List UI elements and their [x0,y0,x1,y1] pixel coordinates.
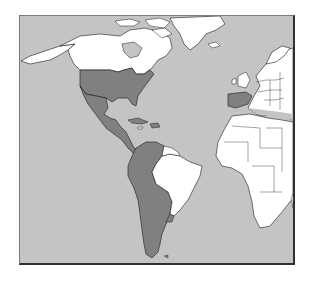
hispaniola [150,123,160,128]
jamaica [138,127,143,129]
world-map [20,16,293,263]
map-frame [19,15,295,265]
